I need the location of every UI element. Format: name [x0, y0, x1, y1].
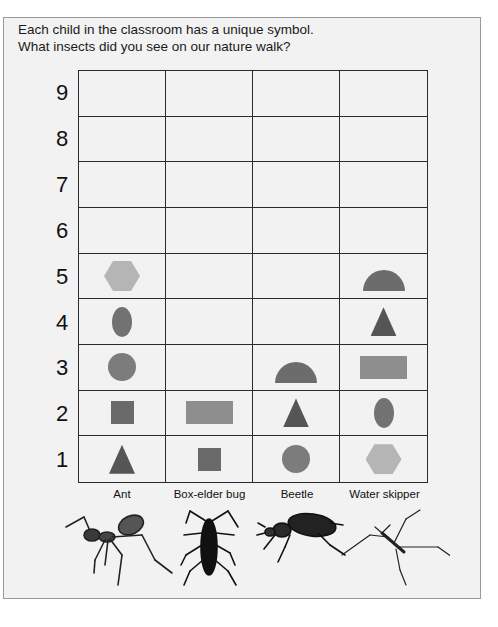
beetle-icon: [257, 511, 345, 562]
y-axis-label: 9: [48, 70, 76, 116]
y-axis-label: 4: [48, 300, 76, 346]
triangle-symbol-icon: [109, 445, 135, 474]
grid-cell: [340, 391, 427, 437]
grid-cell: [166, 117, 253, 163]
y-axis-label: 3: [48, 345, 76, 391]
insect-illustrations: [60, 505, 450, 595]
grid-cell: [166, 208, 253, 254]
triangle-symbol-icon: [371, 307, 397, 336]
box-elder-bug-icon: [181, 511, 238, 585]
grid-cell: [253, 117, 340, 163]
triangle-symbol-icon: [283, 398, 309, 427]
grid-cell: [79, 117, 166, 163]
grid-cell: [166, 436, 253, 482]
grid-cell: [340, 208, 427, 254]
semicircle-symbol-icon: [275, 362, 317, 383]
y-axis-label: 2: [48, 391, 76, 437]
grid-cell: [166, 71, 253, 117]
circle-symbol-icon: [282, 445, 310, 473]
grid-cell: [340, 436, 427, 482]
x-axis-label: Water skipper: [341, 488, 429, 500]
x-axis-label: Box-elder bug: [166, 488, 254, 500]
grid-cell: [253, 71, 340, 117]
grid-cell: [253, 391, 340, 437]
grid-cell: [253, 345, 340, 391]
pictograph-grid: [78, 70, 428, 483]
grid-cell: [79, 299, 166, 345]
grid-cell: [340, 299, 427, 345]
grid-cell: [79, 162, 166, 208]
y-axis-label: 5: [48, 254, 76, 300]
hexagon-symbol-icon: [366, 444, 402, 474]
y-axis-label: 6: [48, 208, 76, 254]
grid-cell: [253, 299, 340, 345]
square-symbol-icon: [111, 401, 134, 424]
semicircle-symbol-icon: [363, 270, 405, 291]
grid-cell: [253, 436, 340, 482]
grid-cell: [166, 299, 253, 345]
title-line-1: Each child in the classroom has a unique…: [18, 21, 314, 38]
x-axis-label: Beetle: [253, 488, 341, 500]
grid-cell: [79, 436, 166, 482]
water-skipper-icon: [342, 510, 450, 585]
square-symbol-icon: [198, 448, 221, 471]
grid-cell: [253, 254, 340, 300]
grid-cell: [340, 254, 427, 300]
y-axis-label: 7: [48, 162, 76, 208]
y-axis-label: 1: [48, 437, 76, 483]
grid-cell: [253, 208, 340, 254]
grid-cell: [166, 391, 253, 437]
rectangle-symbol-icon: [360, 356, 407, 379]
worksheet-title: Each child in the classroom has a unique…: [18, 21, 314, 55]
circle-symbol-icon: [108, 353, 136, 381]
oval-symbol-icon: [112, 307, 132, 337]
grid-cell: [340, 117, 427, 163]
rectangle-symbol-icon: [186, 401, 233, 424]
grid-cell: [340, 162, 427, 208]
grid-cell: [253, 162, 340, 208]
grid-cell: [340, 345, 427, 391]
oval-symbol-icon: [374, 398, 394, 428]
y-axis-label: 8: [48, 116, 76, 162]
title-line-2: What insects did you see on our nature w…: [18, 38, 314, 55]
x-axis-label: Ant: [78, 488, 166, 500]
grid-cell: [79, 345, 166, 391]
grid-cell: [166, 345, 253, 391]
hexagon-symbol-icon: [104, 261, 140, 291]
grid-cell: [79, 254, 166, 300]
grid-cell: [166, 254, 253, 300]
grid-cell: [79, 391, 166, 437]
grid-cell: [166, 162, 253, 208]
grid-cell: [340, 71, 427, 117]
ant-icon: [66, 511, 172, 585]
grid-cell: [79, 71, 166, 117]
grid-cell: [79, 208, 166, 254]
